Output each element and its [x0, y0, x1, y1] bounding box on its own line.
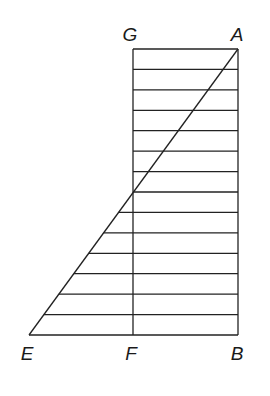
label-f: F	[125, 344, 137, 363]
diagram-lines	[29, 49, 238, 335]
label-g: G	[123, 25, 138, 44]
label-b: B	[231, 344, 244, 363]
label-a: A	[231, 25, 244, 44]
label-e: E	[21, 344, 34, 363]
geometry-diagram	[0, 0, 270, 396]
